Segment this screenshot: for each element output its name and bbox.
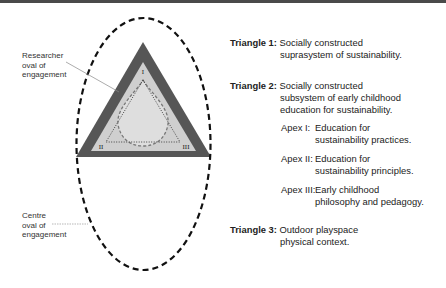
legend-apex-1-title: Apex I: [281, 122, 315, 134]
legend-triangle-2: Triangle 2: Socially constructed subsyst… [230, 80, 401, 116]
legend-triangle-3: Triangle 3: Outdoor playspace physical c… [230, 224, 358, 248]
legend-triangle-2-title: Triangle 2: [230, 80, 277, 91]
legend-apex-2-line1: Education for [315, 153, 370, 164]
researcher-label-line2: oval of [22, 61, 66, 71]
legend-apex-3-line1: Early childhood [315, 184, 379, 195]
legend-triangle-1-line2: suprasystem of sustainability. [230, 49, 402, 61]
legend-apex-1: Apex I:Education for sustainability prac… [281, 122, 411, 146]
legend-apex-1-line1: Education for [315, 122, 370, 133]
researcher-label-line1: Researcher [22, 51, 66, 61]
legend-apex-3-line2: philosophy and pedagogy. [281, 196, 424, 208]
apex-label-3: III [183, 143, 191, 151]
legend-triangle-2-line1: Socially constructed [280, 80, 363, 91]
centre-label-line1: Centre [22, 211, 66, 221]
legend-apex-3: Apex III:Early childhood philosophy and … [281, 184, 424, 208]
apex-label-2: II [99, 143, 104, 151]
legend-apex-2: Apex II:Education for sustainability pri… [281, 153, 413, 177]
legend-triangle-3-line1: Outdoor playspace [280, 224, 359, 235]
legend-triangle-1: Triangle 1: Socially constructed suprasy… [230, 37, 402, 61]
legend-apex-1-line2: sustainability practices. [281, 134, 411, 146]
researcher-oval-label: Researcher oval of engagement [22, 51, 66, 80]
legend-triangle-2-line3: education for sustainability. [230, 104, 401, 116]
researcher-callout-line [66, 62, 119, 92]
centre-label-line3: engagement [22, 230, 66, 240]
legend-triangle-2-line2: subsystem of early childhood [230, 92, 401, 104]
legend-apex-2-title: Apex II: [281, 153, 315, 165]
legend-apex-3-title: Apex III: [281, 184, 315, 196]
legend-triangle-1-line1: Socially constructed [280, 37, 363, 48]
centre-label-line2: oval of [22, 221, 66, 231]
legend-triangle-3-line2: physical context. [230, 236, 358, 248]
legend-apex-2-line2: sustainability principles. [281, 165, 413, 177]
legend-triangle-1-title: Triangle 1: [230, 37, 277, 48]
centre-oval-label: Centre oval of engagement [22, 211, 66, 240]
legend-triangle-3-title: Triangle 3: [230, 224, 277, 235]
researcher-label-line3: engagement [22, 70, 66, 80]
